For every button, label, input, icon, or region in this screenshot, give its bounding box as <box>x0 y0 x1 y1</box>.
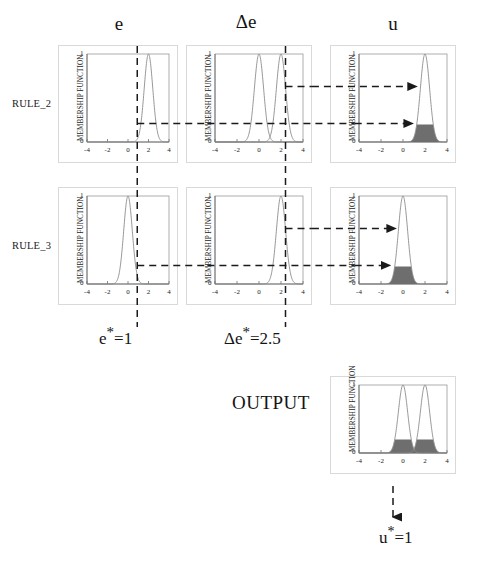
plot-output-u: MEMBERSHIP FUNCTION01-4-2024 <box>330 376 456 474</box>
y-axis-label: MEMBERSHIP FUNCTION <box>349 55 357 142</box>
y-tick-label: 0 <box>80 279 84 287</box>
plot-rule3-u: MEMBERSHIP FUNCTION01-4-2024 <box>330 187 456 305</box>
x-tick-label: 0 <box>398 457 408 465</box>
mf-curve-mf-positive <box>87 54 169 142</box>
e-star-superscript: * <box>107 324 115 340</box>
mf-curve-mf-positive <box>215 196 303 284</box>
x-tick-label: -2 <box>103 288 113 296</box>
x-tick-label: 4 <box>442 146 452 154</box>
e-star-value: =1 <box>114 329 132 348</box>
plot-rule3-delta-e: MEMBERSHIP FUNCTION01-4-2024 <box>186 187 312 305</box>
mf-curve-mf-positive <box>359 54 447 142</box>
y-tick-label: 1 <box>352 49 356 57</box>
e-star-symbol: e <box>99 329 107 348</box>
y-tick-label: 0 <box>208 137 212 145</box>
x-tick-label: 4 <box>442 288 452 296</box>
y-tick-label: 1 <box>80 49 84 57</box>
y-tick-label: 1 <box>352 191 356 199</box>
x-tick-label: -4 <box>82 146 92 154</box>
crisp-input-delta-e-star: Δe*=2.5 <box>224 330 281 348</box>
crisp-output-u-star: u*=1 <box>379 528 413 548</box>
x-tick-label: 2 <box>420 288 430 296</box>
y-tick-label: 0 <box>208 279 212 287</box>
x-tick-label: 4 <box>164 146 174 154</box>
x-tick-label: -2 <box>376 146 386 154</box>
x-tick-label: -2 <box>103 146 113 154</box>
x-tick-label: 2 <box>420 457 430 465</box>
column-header-delta-e: Δe <box>205 12 287 31</box>
y-tick-label: 0 <box>352 279 356 287</box>
y-axis-label: MEMBERSHIP FUNCTION <box>77 55 85 142</box>
x-tick-label: 0 <box>254 146 264 154</box>
x-tick-label: -4 <box>354 146 364 154</box>
row-label-rule-2: RULE_2 <box>12 98 51 109</box>
x-tick-label: 0 <box>123 146 133 154</box>
x-tick-label: 0 <box>398 288 408 296</box>
output-label: OUTPUT <box>232 392 310 414</box>
x-tick-label: 2 <box>144 146 154 154</box>
x-tick-label: -4 <box>210 288 220 296</box>
plot-rule2-delta-e: MEMBERSHIP FUNCTION01-4-2024 <box>186 45 312 163</box>
axes-frame <box>87 196 169 284</box>
x-tick-label: 0 <box>123 288 133 296</box>
y-tick-label: 1 <box>352 380 356 388</box>
x-tick-label: 4 <box>164 288 174 296</box>
plot-rule3-e: MEMBERSHIP FUNCTION01-4-2024 <box>58 187 178 305</box>
delta-e-star-symbol: Δe <box>224 329 242 348</box>
column-header-e: e <box>78 14 160 33</box>
y-axis-label: MEMBERSHIP FUNCTION <box>205 55 213 142</box>
mf-curve-mf-zero <box>87 196 169 284</box>
y-tick-label: 1 <box>208 49 212 57</box>
x-tick-label: 0 <box>254 288 264 296</box>
x-tick-label: -2 <box>376 457 386 465</box>
x-tick-label: 4 <box>298 146 308 154</box>
row-label-rule-3: RULE_3 <box>12 240 51 251</box>
x-tick-label: 2 <box>144 288 154 296</box>
u-star-superscript: * <box>388 524 395 539</box>
x-tick-label: -2 <box>376 288 386 296</box>
x-tick-label: 2 <box>276 288 286 296</box>
x-tick-label: 4 <box>442 457 452 465</box>
y-tick-label: 0 <box>80 137 84 145</box>
plot-rule2-u: MEMBERSHIP FUNCTION01-4-2024 <box>330 45 456 163</box>
mf-curve-mf-positive <box>215 54 303 142</box>
delta-e-star-superscript: * <box>242 324 250 340</box>
crisp-input-e-star: e*=1 <box>99 330 132 348</box>
u-star-symbol: u <box>379 528 388 547</box>
y-axis-label: MEMBERSHIP FUNCTION <box>205 197 213 284</box>
y-axis-label: MEMBERSHIP FUNCTION <box>77 197 85 284</box>
y-tick-label: 1 <box>80 191 84 199</box>
x-tick-label: 0 <box>398 146 408 154</box>
x-tick-label: -2 <box>232 146 242 154</box>
delta-e-star-value: =2.5 <box>250 329 281 348</box>
x-tick-label: -4 <box>354 288 364 296</box>
x-tick-label: 2 <box>276 146 286 154</box>
x-tick-label: -4 <box>82 288 92 296</box>
column-header-u: u <box>352 14 434 33</box>
y-tick-label: 0 <box>352 448 356 456</box>
plot-rule2-e: MEMBERSHIP FUNCTION01-4-2024 <box>58 45 178 163</box>
x-tick-label: 4 <box>298 288 308 296</box>
u-star-value: =1 <box>395 528 413 547</box>
clipped-output-area <box>359 266 447 284</box>
x-tick-label: -4 <box>210 146 220 154</box>
y-axis-label: MEMBERSHIP FUNCTION <box>349 197 357 284</box>
x-tick-label: -4 <box>354 457 364 465</box>
y-tick-label: 0 <box>352 137 356 145</box>
x-tick-label: 2 <box>420 146 430 154</box>
x-tick-label: -2 <box>232 288 242 296</box>
y-tick-label: 1 <box>208 191 212 199</box>
y-axis-label: MEMBERSHIP FUNCTION <box>349 366 357 453</box>
